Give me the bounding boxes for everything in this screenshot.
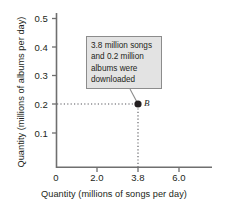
x-tick-label-0: 0	[41, 172, 71, 183]
annotation-callout: 3.8 million songs and 0.2 million albums…	[86, 36, 162, 89]
x-axis-title: Quantity (millions of songs per day)	[0, 189, 228, 199]
y-axis-title: Quantity (millions of albums per day)	[16, 2, 26, 182]
data-point-label-b: B	[144, 98, 150, 108]
annotation-line-1: 3.8 million songs	[91, 40, 157, 51]
annotation-leader-line	[130, 89, 137, 103]
data-point-b	[134, 100, 141, 107]
annotation-line-2: and 0.2 million	[91, 51, 157, 62]
x-tick-label-3: 6.0	[164, 172, 194, 183]
x-tick-label-1: 2.0	[82, 172, 112, 183]
x-tick-label-2: 3.8	[123, 172, 153, 183]
annotation-line-3: albums were	[91, 63, 157, 74]
annotation-line-4: downloaded	[91, 74, 157, 85]
chart-container: 0.5 0.4 0.3 0.2 0.1 0 2.0 3.8 6.0 Quanti…	[0, 0, 228, 205]
